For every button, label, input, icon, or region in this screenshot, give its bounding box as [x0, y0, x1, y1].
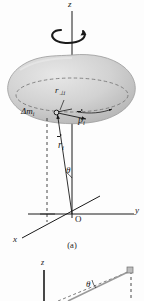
rigid-body-blob: [8, 55, 136, 124]
panel-b-theta-arc: [92, 280, 96, 288]
x-axis-line: [22, 196, 100, 238]
position-vector-arrow: [58, 115, 73, 215]
panel-b-apex-marker: [127, 267, 133, 273]
panel-b-solid-line: [68, 271, 130, 301]
mass-point-dot-icon: [54, 110, 59, 115]
panel-b: z θ: [0, 258, 144, 301]
panel-a-caption: (a): [0, 240, 144, 250]
physics-figure: z r⊥i Δmi pi ri θ y O x (a) z θ: [0, 0, 144, 301]
panel-a: z r⊥i Δmi pi ri θ y O x (a): [0, 0, 144, 258]
panel-a-drawing: [0, 0, 144, 258]
panel-b-drawing: [0, 258, 144, 301]
rotation-arrow-icon: [52, 30, 86, 43]
